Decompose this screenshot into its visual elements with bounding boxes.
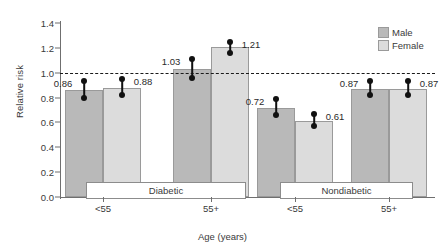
value-label: 0.61	[326, 110, 345, 121]
error-bar-cap-upper	[81, 78, 87, 84]
x-tick-label: 55+	[203, 203, 219, 214]
x-axis-title: Age (years)	[0, 231, 445, 242]
x-tick-label: 55+	[381, 203, 397, 214]
y-tick-mark	[55, 197, 60, 198]
error-bar-cap-upper	[227, 39, 233, 45]
value-label: 0.86	[54, 78, 73, 89]
legend-swatch-male-icon	[378, 27, 389, 38]
error-bar-cap-lower	[311, 123, 317, 129]
error-bar-cap-lower	[81, 95, 87, 101]
legend: Male Female	[378, 26, 424, 52]
error-bar-cap-lower	[119, 92, 125, 98]
bar-male-group0[interactable]	[65, 90, 103, 197]
error-bar-cap-upper	[273, 96, 279, 102]
x-tick-mark	[389, 197, 390, 202]
value-label: 0.87	[340, 78, 359, 89]
legend-item-female: Female	[378, 39, 424, 51]
y-tick-mark	[55, 172, 60, 173]
y-tick-mark	[55, 47, 60, 48]
legend-swatch-female-icon	[378, 40, 389, 51]
legend-label-male: Male	[392, 27, 413, 38]
error-bar-cap-upper	[311, 111, 317, 117]
bar-male-group3[interactable]	[351, 89, 389, 197]
legend-item-male: Male	[378, 26, 424, 38]
y-tick-mark	[55, 122, 60, 123]
error-bar-cap-upper	[405, 78, 411, 84]
value-label: 0.87	[420, 78, 439, 89]
bar-female-group3[interactable]	[389, 89, 427, 197]
y-tick-mark	[55, 23, 60, 24]
error-bar-cap-upper	[189, 56, 195, 62]
error-bar-cap-lower	[189, 75, 195, 81]
y-tick-mark	[55, 147, 60, 148]
value-label: 1.03	[162, 56, 181, 67]
group-label-box-nondiabetic: Nondiabetic	[280, 182, 413, 199]
value-label: 0.88	[134, 75, 153, 86]
x-tick-mark	[103, 197, 104, 202]
error-bar-cap-upper	[119, 76, 125, 82]
bar-female-group1[interactable]	[211, 47, 249, 197]
x-tick-label: <55	[95, 203, 111, 214]
group-label-box-diabetic: Diabetic	[86, 182, 246, 199]
relative-risk-bar-chart: Relative risk Age (years) 0.00.20.40.60.…	[0, 0, 445, 250]
legend-label-female: Female	[392, 40, 424, 51]
x-tick-mark	[295, 197, 296, 202]
value-label: 1.21	[242, 38, 261, 49]
bar-female-group0[interactable]	[103, 88, 141, 197]
reference-line	[60, 73, 435, 74]
bar-male-group1[interactable]	[173, 69, 211, 197]
x-tick-mark	[211, 197, 212, 202]
error-bar-cap-lower	[405, 92, 411, 98]
error-bar-cap-lower	[367, 92, 373, 98]
error-bar-cap-upper	[367, 78, 373, 84]
error-bar-cap-lower	[273, 112, 279, 118]
y-axis-title: Relative risk	[14, 37, 25, 147]
x-tick-label: <55	[287, 203, 303, 214]
value-label: 0.72	[246, 95, 265, 106]
error-bar-cap-lower	[227, 50, 233, 56]
y-tick-mark	[55, 97, 60, 98]
